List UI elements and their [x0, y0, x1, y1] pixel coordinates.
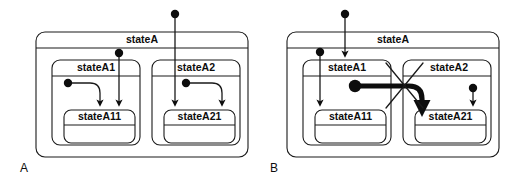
state-a1-label: stateA1: [77, 61, 115, 73]
initial-pseudostate-dot: [182, 79, 190, 87]
state-a21[interactable]: stateA21: [164, 110, 235, 143]
initial-pseudostate-dot: [316, 48, 324, 56]
panel-a: stateA stateA1 stateA11 stateA2 stateA21: [20, 10, 248, 175]
uml-state-diagram: stateA stateA1 stateA11 stateA2 stateA21: [0, 0, 518, 186]
state-a-outer-label: stateA: [126, 33, 159, 45]
state-a11-label-b: stateA11: [329, 110, 372, 122]
panel-a-caption: A: [20, 161, 28, 175]
panel-b: stateA stateA1 stateA11 stateA2 stateA21: [270, 10, 499, 175]
state-a21-b[interactable]: stateA21: [415, 110, 486, 143]
state-a2-label: stateA2: [177, 61, 215, 73]
state-a21-label: stateA21: [178, 110, 222, 122]
state-a11[interactable]: stateA11: [64, 110, 135, 143]
state-a11-label: stateA11: [78, 110, 121, 122]
initial-pseudostate-dot: [64, 79, 72, 87]
initial-pseudostate-dot: [469, 84, 477, 92]
panel-b-caption: B: [270, 161, 278, 175]
state-a2-label-b: stateA2: [430, 61, 468, 73]
initial-pseudostate-dot: [341, 10, 349, 18]
state-a11-b[interactable]: stateA11: [315, 110, 386, 143]
state-a1-label-b: stateA1: [328, 61, 366, 73]
diagram-canvas: stateA stateA1 stateA11 stateA2 stateA21: [0, 0, 518, 186]
initial-pseudostate-dot: [115, 49, 123, 57]
state-a-outer-label-b: stateA: [377, 33, 410, 45]
initial-pseudostate-dot: [171, 10, 179, 18]
state-a21-label-b: stateA21: [429, 110, 473, 122]
